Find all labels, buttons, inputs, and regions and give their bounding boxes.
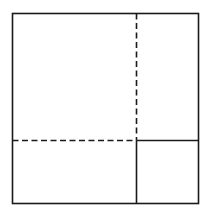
outer-square [13,14,199,204]
square-partition-diagram [0,0,211,213]
